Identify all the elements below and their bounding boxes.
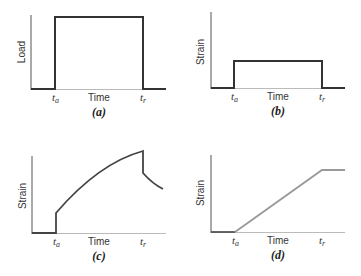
x-axis-label: Time [267, 91, 289, 102]
t-r-label: tr [319, 234, 326, 248]
panel-caption: (d) [271, 248, 285, 262]
t-a-label: ta [52, 91, 59, 105]
panel-d: Strain Time ta tr (d) [195, 155, 345, 262]
panel-b: Strain Time ta tr (b) [195, 12, 345, 118]
x-axis-label: Time [88, 236, 110, 247]
x-axis-label: Time [267, 235, 289, 246]
figure-canvas: Load Time ta tr (a) Strain Time ta tr (b… [0, 0, 361, 276]
t-r-label: tr [319, 90, 326, 104]
t-r-label: tr [140, 91, 147, 105]
y-axis-label: Strain [17, 183, 28, 209]
t-a-label: ta [53, 235, 60, 249]
panel-c: Strain Time ta tr (c) [17, 151, 166, 263]
panel-a: Load Time ta tr (a) [16, 15, 166, 119]
x-axis-label: Time [88, 92, 110, 103]
y-axis-label: Strain [195, 39, 206, 65]
strain-curve [211, 61, 345, 88]
t-r-label: tr [140, 235, 147, 249]
t-a-label: ta [231, 90, 238, 104]
load-curve [31, 17, 166, 89]
y-axis-label: Strain [195, 180, 206, 206]
panel-caption: (c) [92, 249, 105, 263]
strain-curve [32, 151, 163, 233]
panel-caption: (a) [92, 105, 106, 119]
t-a-label: ta [232, 234, 239, 248]
y-axis-label: Load [16, 41, 27, 63]
panel-caption: (b) [271, 104, 285, 118]
strain-curve [235, 170, 345, 232]
